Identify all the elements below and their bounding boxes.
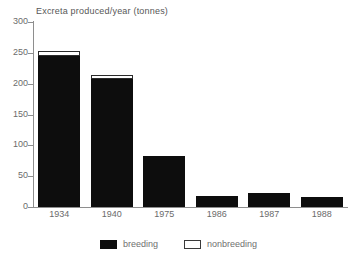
bar-segment-breeding[interactable] <box>143 156 185 207</box>
x-axis-tick-label: 1934 <box>33 209 86 219</box>
legend-item[interactable]: nonbreeding <box>184 239 257 249</box>
x-axis-tick-label: 1987 <box>243 209 296 219</box>
bar-group[interactable] <box>248 22 290 207</box>
bar-group[interactable] <box>196 22 238 207</box>
filled-black-swatch <box>100 240 117 249</box>
y-axis-tick-labels: 050100150200250300 <box>0 0 28 259</box>
y-axis-tick-label: 50 <box>2 170 28 180</box>
bar-segment-breeding[interactable] <box>91 79 133 207</box>
legend-item[interactable]: breeding <box>100 239 158 249</box>
bar-group[interactable] <box>301 22 343 207</box>
y-axis-tick-label: 200 <box>2 78 28 88</box>
y-axis-tick-label: 300 <box>2 16 28 26</box>
y-axis-tick-label: 150 <box>2 109 28 119</box>
x-axis-tick-label: 1986 <box>191 209 244 219</box>
bar-group[interactable] <box>38 22 80 207</box>
legend-item-label: breeding <box>123 239 158 249</box>
chart-title: Excreta produced/year (tonnes) <box>36 6 168 16</box>
bar-group[interactable] <box>91 22 133 207</box>
bar-segment-nonbreeding[interactable] <box>38 51 80 56</box>
chart-legend: breedingnonbreeding <box>0 236 357 252</box>
y-axis-tick <box>28 207 34 208</box>
y-axis-tick-label: 0 <box>2 201 28 211</box>
open-white-swatch <box>184 240 201 249</box>
x-axis-tick-labels: 193419401975198619871988 <box>33 209 348 223</box>
legend-item-label: nonbreeding <box>207 239 257 249</box>
y-axis-tick-label: 250 <box>2 47 28 57</box>
bar-group[interactable] <box>143 22 185 207</box>
y-axis-tick-label: 100 <box>2 139 28 149</box>
bar-segment-nonbreeding[interactable] <box>91 75 133 79</box>
x-axis-tick-label: 1940 <box>86 209 139 219</box>
x-axis-tick-label: 1988 <box>296 209 349 219</box>
bar-segment-breeding[interactable] <box>301 197 343 207</box>
bars-layer <box>33 22 348 207</box>
bar-segment-breeding[interactable] <box>38 56 80 207</box>
bar-chart: Excreta produced/year (tonnes) 050100150… <box>0 0 357 259</box>
x-axis-line <box>33 207 348 208</box>
x-axis-tick-label: 1975 <box>138 209 191 219</box>
bar-segment-breeding[interactable] <box>196 196 238 207</box>
bar-segment-breeding[interactable] <box>248 193 290 207</box>
